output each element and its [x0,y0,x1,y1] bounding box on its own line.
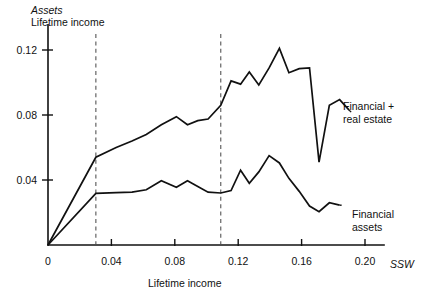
x-axis-title: Lifetime income [148,277,222,289]
x-tick-label: 0.08 [155,255,195,267]
data-series-group [48,48,349,245]
series-line-financial-real-estate [48,48,349,245]
series-annotation-financial-assets: Financial assets [352,208,394,233]
x-tick-label: 0.20 [345,255,385,267]
series-annotation-financial-real-estate: Financial + real estate [343,100,394,125]
x-tick-label: 0.04 [91,255,131,267]
y-axis-title-assets: Assets [31,4,63,16]
y-tick-label: 0.12 [0,44,37,56]
y-axis-title-lifetime-income: Lifetime income [31,16,105,28]
y-tick-label: 0.04 [0,174,37,186]
annotation-line-1: Financial [352,208,394,221]
x-axis-variable-ssw: SSW [390,258,414,270]
x-tick-label: 0.12 [218,255,258,267]
x-tick-label: 0 [28,255,68,267]
annotation-line-2: assets [352,221,394,234]
series-line-financial-assets [48,156,340,245]
reference-lines-group [96,34,221,244]
annotation-line-1: Financial + [343,100,394,113]
y-tick-label: 0.08 [0,109,37,121]
annotation-line-2: real estate [343,113,394,126]
x-tick-label: 0.16 [282,255,322,267]
chart-figure: Assets Lifetime income Lifetime income S… [0,0,431,300]
axes-group [48,25,384,245]
